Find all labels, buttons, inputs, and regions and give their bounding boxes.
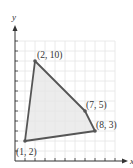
label-point-1: (1, 2) — [16, 147, 37, 158]
coordinate-plane: y x (1, 2) (2, 10) (7, 5) (8, 3) — [0, 0, 133, 168]
label-point-4: (8, 3) — [96, 120, 117, 131]
vertex-point-1 — [23, 139, 27, 143]
label-point-3: (7, 5) — [86, 100, 107, 111]
x-axis-label: x — [129, 156, 133, 166]
label-point-2: (2, 10) — [37, 50, 62, 61]
x-axis-arrow-icon — [122, 159, 128, 164]
y-axis-label: y — [11, 12, 16, 22]
y-axis-arrow-icon — [13, 25, 18, 31]
